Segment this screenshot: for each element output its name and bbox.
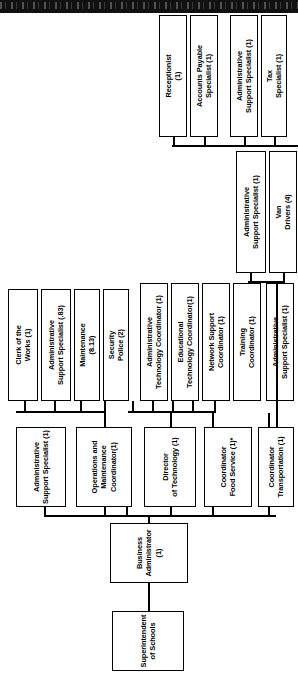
- director-technology-line1: Director: [161, 437, 170, 496]
- connector-technology-out: [170, 413, 172, 427]
- connector-transportation-out: [212, 413, 214, 427]
- node-receptionist[interactable]: Receptionist (1): [159, 15, 187, 137]
- node-tech-admin-support-specialist[interactable]: Administrative Support Specialist (1): [266, 283, 294, 401]
- scan-artifact-bar: [0, 0, 298, 13]
- clerk-of-works-line2: Works (1): [23, 325, 32, 364]
- accounts-payable-line1: Accounts Payable: [195, 45, 204, 107]
- admin-support-top-line2: Support Specialist (1): [41, 430, 50, 504]
- node-maintenance[interactable]: Maintenance (8.13): [74, 289, 100, 401]
- node-training-coordinator[interactable]: Training Coordinator (1): [233, 283, 261, 401]
- connector-trunk-to-director-technology: [126, 507, 128, 517]
- van-drivers-line1: Van: [274, 194, 283, 229]
- node-transport-admin-support-specialist[interactable]: Administrative Support Specialist (1): [236, 151, 266, 273]
- connector-transport-to-van: [283, 273, 285, 283]
- om-admin-support-line1: Administrative: [47, 305, 56, 385]
- connector-business-to-admin-support: [244, 137, 246, 147]
- security-police-line2: Police (2): [116, 329, 125, 361]
- node-director-of-technology[interactable]: Director of Technology (1): [144, 427, 196, 507]
- connector-business-coord-out: [268, 413, 270, 427]
- food-service-line1: Coordinator: [219, 438, 228, 497]
- tax-specialist-line2: Specialist (1): [274, 54, 283, 98]
- connector-superintendent-to-business: [148, 583, 150, 611]
- connector-operations-bus: [16, 411, 106, 413]
- superintendent-line1: Superintendent: [139, 615, 148, 668]
- connector-technology-bus: [128, 411, 172, 413]
- admin-support-top-line1: Administrative: [32, 430, 41, 504]
- connector-business-to-accounts-payable: [204, 137, 206, 147]
- connector-technology-to-admin-tech: [132, 401, 134, 413]
- node-business-administrator[interactable]: Business Administrator (1): [110, 523, 188, 583]
- org-chart-canvas: Superintendent of Schools Business Admin…: [0, 13, 298, 689]
- connector-trunk-to-food-service: [170, 507, 172, 517]
- node-clerk-of-the-works[interactable]: Clerk of the Works (1): [8, 289, 38, 401]
- connector-operations-out: [104, 413, 106, 427]
- connector-business-to-tax: [274, 137, 276, 147]
- connector-business-coord-bus-drop: [244, 145, 298, 147]
- tax-specialist-line1: Tax: [265, 54, 274, 98]
- node-operations-maintenance-coordinator[interactable]: Operations and Maintenance Coordinator(1…: [76, 427, 132, 507]
- node-business-admin-support-specialist[interactable]: Administrative Support Specialist (1): [230, 15, 258, 137]
- edu-tech-coordinator-line1: Educational: [176, 296, 185, 388]
- network-support-line2: Coordinator (1): [216, 313, 225, 371]
- connector-operations-to-clerk: [24, 401, 26, 413]
- training-coordinator-line1: Training: [238, 316, 247, 368]
- business-administrator-line1: Business: [135, 526, 144, 580]
- connector-transport-to-admin: [250, 273, 252, 283]
- food-service-line2: Food Service (1)*: [228, 438, 237, 497]
- clerk-of-works-line1: Clerk of the: [14, 325, 23, 364]
- business-admin-support-line1: Administrative: [235, 39, 244, 113]
- connector-operations-to-security: [104, 401, 106, 413]
- receptionist-line1: Receptionist: [164, 54, 173, 97]
- connector-trunk-to-business-coord: [268, 507, 270, 517]
- connector-technology-bus-lower: [170, 411, 216, 413]
- maintenance-line2: (8.13): [87, 323, 96, 367]
- transport-admin-support-line1: Administrative: [242, 175, 251, 249]
- node-om-admin-support-specialist[interactable]: Administrative Support Specialist (.83): [41, 289, 71, 401]
- connector-trunk-to-operations: [104, 507, 106, 517]
- connector-technology-to-edu-tech: [152, 401, 154, 413]
- node-coordinator-transportation[interactable]: Coordinator Transportation (1): [258, 427, 294, 507]
- transport-admin-support-line2: Support Specialist (1): [251, 175, 260, 249]
- superintendent-line2: of Schools: [148, 615, 157, 668]
- training-coordinator-line2: Coordinator (1): [247, 316, 256, 368]
- om-admin-support-line2: Support Specialist (.83): [56, 305, 65, 385]
- security-police-line1: Security: [107, 329, 116, 361]
- receptionist-line2: (1): [173, 54, 182, 97]
- business-admin-support-line2: Support Specialist (1): [244, 39, 253, 113]
- connector-business-to-receptionist: [173, 137, 175, 147]
- accounts-payable-line2: Specialist (1): [204, 45, 213, 107]
- connector-trunk-to-transportation: [212, 507, 214, 517]
- transportation-line1: Coordinator: [267, 436, 276, 497]
- maintenance-line1: Maintenance: [78, 323, 87, 367]
- edu-tech-coordinator-line2: Technology Coordinator(1): [185, 296, 194, 388]
- node-superintendent[interactable]: Superintendent of Schools: [112, 611, 184, 671]
- connector-business-to-trunk: [148, 515, 150, 523]
- connector-operations-to-maintenance: [80, 401, 82, 413]
- node-van-drivers[interactable]: Van Drivers (4): [269, 151, 297, 273]
- node-security-police[interactable]: Security Police (2): [103, 289, 129, 401]
- connector-business-trunk: [44, 515, 276, 517]
- node-admin-support-specialist-top[interactable]: Administrative Support Specialist (1): [16, 427, 66, 507]
- admin-tech-coordinator-line2: Technology Coordinator (1): [154, 295, 163, 389]
- node-accounts-payable-specialist[interactable]: Accounts Payable Specialist (1): [190, 15, 218, 137]
- connector-operations-to-admin-support: [54, 401, 56, 413]
- tech-admin-support-line2: Support Specialist (1): [280, 305, 289, 379]
- operations-maintenance-line1: Operations and: [90, 430, 99, 504]
- connector-transportation-bus-in: [276, 283, 278, 427]
- node-tax-specialist[interactable]: Tax Specialist (1): [261, 15, 287, 137]
- business-administrator-line2: Administrator (1): [144, 526, 162, 580]
- node-network-support-coordinator[interactable]: Network Support Coordinator (1): [202, 283, 230, 401]
- node-administrative-technology-coordinator[interactable]: Administrative Technology Coordinator (1…: [140, 283, 168, 401]
- connector-trunk-to-admin-support-top: [44, 507, 46, 517]
- connector-transportation-bus-v: [248, 281, 284, 283]
- network-support-line1: Network Support: [207, 313, 216, 371]
- node-educational-technology-coordinator[interactable]: Educational Technology Coordinator(1): [171, 283, 199, 401]
- transportation-line2: Transportation (1): [276, 436, 285, 497]
- node-coordinator-food-service[interactable]: Coordinator Food Service (1)*: [204, 427, 252, 507]
- van-drivers-line2: Drivers (4): [283, 194, 292, 229]
- operations-maintenance-line2: Maintenance Coordinator(1): [99, 430, 117, 504]
- org-chart-page: Superintendent of Schools Business Admin…: [0, 0, 298, 689]
- admin-tech-coordinator-line1: Administrative: [145, 295, 154, 389]
- director-technology-line2: of Technology (1): [170, 437, 179, 496]
